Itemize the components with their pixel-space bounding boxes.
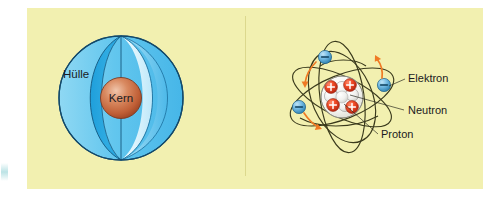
proton-particle <box>327 99 340 112</box>
label-neutron: Neutron <box>408 104 447 116</box>
panel-shell-model: Hülle Kern <box>59 36 183 160</box>
label-kern: Kern <box>109 92 133 104</box>
label-huelle: Hülle <box>63 68 89 80</box>
figure-illustration: Hülle Kern <box>0 0 494 197</box>
panel-rutherford-model: Elektron Neutron Proton <box>283 38 449 155</box>
label-proton: Proton <box>381 128 413 140</box>
figure-root: Hülle Kern <box>0 0 494 197</box>
leader-line-electron <box>389 79 405 86</box>
rotation-arrow <box>375 55 382 78</box>
electron-particle <box>318 50 331 63</box>
electron-particle <box>377 78 390 91</box>
electron-particle <box>292 100 305 113</box>
rotation-arrow-head <box>302 81 309 88</box>
label-elektron: Elektron <box>408 72 448 84</box>
